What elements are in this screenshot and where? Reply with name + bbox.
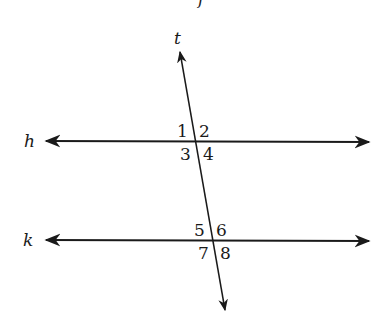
angle-3-label: 3 — [180, 144, 191, 164]
label-k: k — [23, 230, 33, 250]
angle-6-label: 6 — [216, 220, 227, 240]
angle-1-label: 1 — [177, 121, 188, 141]
angle-8-label: 8 — [220, 243, 231, 263]
angle-7-label: 7 — [198, 243, 209, 263]
angle-2-label: 2 — [199, 121, 210, 141]
angle-5-label: 5 — [194, 220, 205, 240]
transversal-diagram: f h k t 1 2 3 4 5 6 7 8 — [0, 0, 384, 326]
label-t: t — [174, 28, 181, 48]
line-k — [46, 240, 369, 241]
label-h: h — [24, 131, 35, 151]
top-partial-label: f — [196, 0, 207, 8]
line-h — [46, 141, 369, 142]
angle-4-label: 4 — [203, 144, 214, 164]
transversal-t — [180, 52, 225, 310]
